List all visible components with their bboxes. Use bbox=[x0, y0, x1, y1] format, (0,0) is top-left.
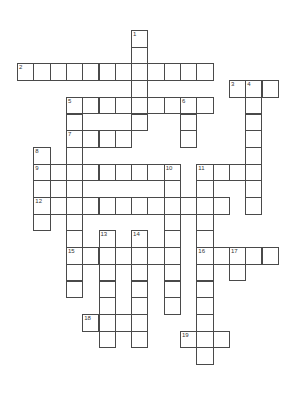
crossword-cell[interactable]: 10 bbox=[164, 164, 181, 182]
crossword-cell[interactable] bbox=[99, 164, 116, 182]
crossword-cell[interactable] bbox=[164, 281, 181, 299]
crossword-cell[interactable] bbox=[99, 314, 116, 332]
crossword-cell[interactable] bbox=[131, 281, 148, 299]
crossword-cell[interactable] bbox=[196, 264, 213, 282]
crossword-cell[interactable] bbox=[99, 297, 116, 315]
crossword-cell[interactable] bbox=[245, 197, 262, 215]
crossword-cell[interactable]: 1 bbox=[131, 30, 148, 48]
crossword-cell[interactable] bbox=[147, 247, 164, 265]
crossword-cell[interactable] bbox=[50, 164, 67, 182]
crossword-cell[interactable] bbox=[164, 63, 181, 81]
crossword-cell[interactable] bbox=[196, 347, 213, 365]
crossword-cell[interactable] bbox=[245, 114, 262, 132]
crossword-cell[interactable] bbox=[245, 180, 262, 198]
crossword-cell[interactable] bbox=[196, 214, 213, 232]
crossword-cell[interactable] bbox=[196, 63, 213, 81]
crossword-cell[interactable] bbox=[131, 80, 148, 98]
crossword-cell[interactable]: 13 bbox=[99, 230, 116, 248]
crossword-cell[interactable] bbox=[196, 97, 213, 115]
crossword-cell[interactable] bbox=[245, 247, 262, 265]
crossword-cell[interactable] bbox=[82, 164, 99, 182]
crossword-cell[interactable] bbox=[50, 63, 67, 81]
crossword-cell[interactable]: 7 bbox=[66, 130, 83, 148]
crossword-cell[interactable] bbox=[245, 164, 262, 182]
crossword-cell[interactable] bbox=[99, 331, 116, 349]
crossword-cell[interactable] bbox=[180, 63, 197, 81]
crossword-cell[interactable] bbox=[66, 264, 83, 282]
crossword-cell[interactable] bbox=[82, 247, 99, 265]
crossword-cell[interactable] bbox=[82, 197, 99, 215]
crossword-cell[interactable] bbox=[131, 114, 148, 132]
crossword-cell[interactable] bbox=[147, 164, 164, 182]
crossword-cell[interactable] bbox=[164, 230, 181, 248]
crossword-cell[interactable]: 15 bbox=[66, 247, 83, 265]
crossword-cell[interactable] bbox=[196, 314, 213, 332]
crossword-cell[interactable]: 12 bbox=[33, 197, 50, 215]
crossword-cell[interactable] bbox=[115, 97, 132, 115]
crossword-cell[interactable] bbox=[66, 281, 83, 299]
crossword-cell[interactable] bbox=[131, 297, 148, 315]
crossword-cell[interactable] bbox=[66, 197, 83, 215]
crossword-cell[interactable]: 19 bbox=[180, 331, 197, 349]
crossword-cell[interactable] bbox=[33, 180, 50, 198]
crossword-cell[interactable] bbox=[164, 97, 181, 115]
crossword-cell[interactable]: 8 bbox=[33, 147, 50, 165]
crossword-cell[interactable]: 2 bbox=[17, 63, 34, 81]
crossword-cell[interactable]: 3 bbox=[229, 80, 246, 98]
crossword-cell[interactable] bbox=[50, 197, 67, 215]
crossword-cell[interactable] bbox=[99, 97, 116, 115]
crossword-cell[interactable] bbox=[196, 297, 213, 315]
crossword-cell[interactable]: 6 bbox=[180, 97, 197, 115]
crossword-cell[interactable] bbox=[99, 264, 116, 282]
crossword-cell[interactable] bbox=[245, 97, 262, 115]
crossword-cell[interactable]: 11 bbox=[196, 164, 213, 182]
crossword-cell[interactable] bbox=[131, 247, 148, 265]
crossword-cell[interactable] bbox=[99, 130, 116, 148]
crossword-cell[interactable] bbox=[99, 63, 116, 81]
crossword-cell[interactable] bbox=[262, 247, 279, 265]
crossword-cell[interactable] bbox=[66, 214, 83, 232]
crossword-cell[interactable] bbox=[131, 164, 148, 182]
crossword-cell[interactable] bbox=[196, 230, 213, 248]
crossword-cell[interactable] bbox=[131, 314, 148, 332]
crossword-cell[interactable] bbox=[131, 264, 148, 282]
crossword-cell[interactable] bbox=[99, 247, 116, 265]
crossword-cell[interactable] bbox=[66, 180, 83, 198]
crossword-cell[interactable]: 9 bbox=[33, 164, 50, 182]
crossword-cell[interactable] bbox=[262, 80, 279, 98]
crossword-cell[interactable] bbox=[180, 197, 197, 215]
crossword-cell[interactable] bbox=[99, 197, 116, 215]
crossword-cell[interactable] bbox=[164, 297, 181, 315]
crossword-cell[interactable] bbox=[196, 281, 213, 299]
crossword-cell[interactable]: 16 bbox=[196, 247, 213, 265]
crossword-cell[interactable]: 18 bbox=[82, 314, 99, 332]
crossword-cell[interactable]: 4 bbox=[245, 80, 262, 98]
crossword-cell[interactable] bbox=[50, 180, 67, 198]
crossword-cell[interactable] bbox=[131, 331, 148, 349]
crossword-cell[interactable] bbox=[66, 230, 83, 248]
crossword-cell[interactable] bbox=[245, 147, 262, 165]
crossword-cell[interactable] bbox=[131, 63, 148, 81]
crossword-cell[interactable] bbox=[131, 197, 148, 215]
crossword-cell[interactable] bbox=[82, 130, 99, 148]
crossword-cell[interactable] bbox=[147, 97, 164, 115]
crossword-cell[interactable] bbox=[82, 63, 99, 81]
crossword-cell[interactable] bbox=[196, 331, 213, 349]
crossword-cell[interactable] bbox=[115, 164, 132, 182]
crossword-cell[interactable] bbox=[213, 164, 230, 182]
crossword-cell[interactable] bbox=[33, 63, 50, 81]
crossword-cell[interactable] bbox=[115, 197, 132, 215]
crossword-cell[interactable] bbox=[66, 114, 83, 132]
crossword-cell[interactable] bbox=[229, 264, 246, 282]
crossword-cell[interactable] bbox=[229, 164, 246, 182]
crossword-cell[interactable] bbox=[99, 281, 116, 299]
crossword-cell[interactable] bbox=[213, 247, 230, 265]
crossword-cell[interactable] bbox=[66, 147, 83, 165]
crossword-cell[interactable] bbox=[131, 97, 148, 115]
crossword-cell[interactable] bbox=[213, 197, 230, 215]
crossword-cell[interactable] bbox=[147, 197, 164, 215]
crossword-cell[interactable] bbox=[245, 130, 262, 148]
crossword-cell[interactable] bbox=[180, 114, 197, 132]
crossword-cell[interactable] bbox=[164, 214, 181, 232]
crossword-cell[interactable] bbox=[180, 130, 197, 148]
